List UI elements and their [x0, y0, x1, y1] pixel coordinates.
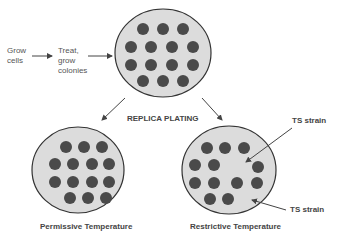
permissive-label: Permissive Temperature [40, 222, 132, 232]
restrictive-label: Restrictive Temperature [190, 222, 281, 232]
permissive-plate [32, 127, 124, 213]
ts-strain-label-2: TS strain [290, 205, 324, 215]
ts-strain-label-1: TS strain [292, 116, 326, 126]
master-plate [115, 9, 211, 97]
step-grow-cells: Grow cells [7, 46, 26, 66]
replica-plating-label: REPLICA PLATING [127, 114, 199, 124]
restrictive-plate [182, 126, 276, 214]
arrow-to-restrictive [202, 98, 222, 120]
step-treat: Treat, grow colonies [58, 46, 87, 76]
arrow-to-permissive [102, 98, 125, 120]
